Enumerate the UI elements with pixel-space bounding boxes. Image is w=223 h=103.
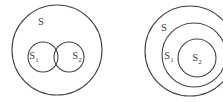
set-diagram-canvas: S S1 S2 S S1 S2 [0, 0, 223, 103]
right-label-S: S [161, 22, 167, 33]
left-panel-overlapping-subsets: S S1 S2 [12, 5, 102, 95]
set-diagram-figure: S S1 S2 S S1 S2 [0, 0, 223, 103]
right-label-S2: S2 [192, 52, 202, 65]
left-label-S2: S2 [72, 50, 82, 63]
right-panel-nested-subsets: S S1 S2 [145, 6, 223, 96]
left-outer-circle-S [12, 5, 102, 95]
left-label-S1: S1 [29, 50, 39, 63]
right-label-S1: S1 [164, 50, 174, 63]
left-label-S: S [38, 16, 44, 27]
